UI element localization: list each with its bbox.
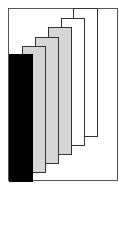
window-panel-1 — [9, 54, 33, 182]
